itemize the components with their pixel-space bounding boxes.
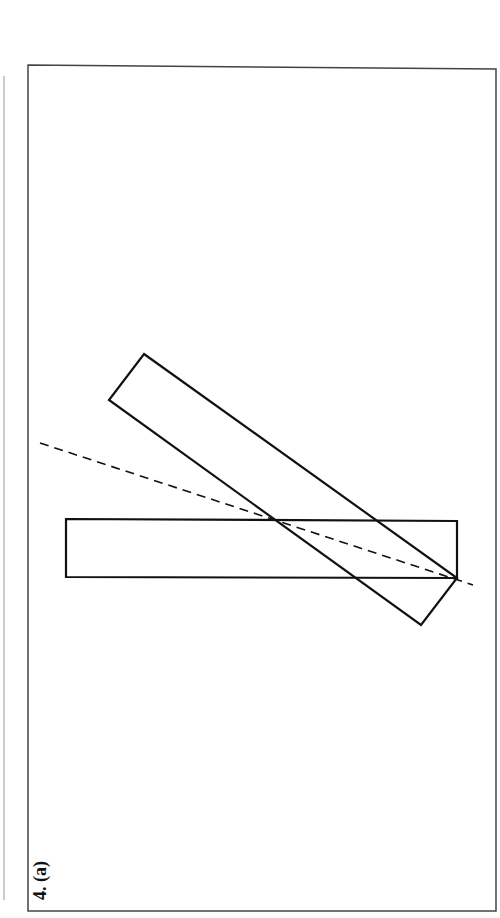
figure-frame	[28, 65, 496, 911]
dashed-axis-line	[40, 443, 473, 585]
figure-canvas: 4. (a)	[0, 0, 500, 918]
tilted-rectangle	[109, 354, 457, 625]
horizontal-rectangle	[66, 519, 457, 578]
diagram-svg	[0, 0, 500, 918]
figure-label: 4. (a)	[30, 840, 50, 900]
